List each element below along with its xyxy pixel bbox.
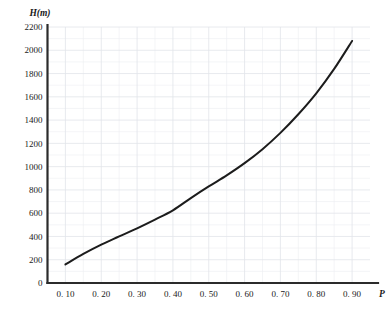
x-axis-tick-labels: 0. 100. 200. 300. 400. 500. 600. 700. 80…: [56, 289, 361, 299]
y-tick-label: 400: [29, 232, 43, 242]
y-tick-label: 1000: [25, 162, 44, 172]
y-tick-label: 1400: [25, 115, 44, 125]
y-axis-title: H(m): [28, 8, 50, 19]
line-chart: 0200400600800100012001400160018002000220…: [0, 0, 388, 316]
y-tick-label: 1600: [25, 92, 44, 102]
x-tick-label: 0. 60: [236, 289, 255, 299]
x-tick-label: 0. 20: [92, 289, 111, 299]
x-tick-label: 0. 40: [164, 289, 183, 299]
x-axis-title: P: [379, 289, 385, 299]
y-tick-label: 1800: [25, 69, 44, 79]
x-tick-label: 0. 90: [343, 289, 362, 299]
x-tick-label: 0. 80: [307, 289, 326, 299]
x-tick-label: 0. 30: [128, 289, 147, 299]
x-tick-label: 0. 70: [271, 289, 290, 299]
chart-container: 0200400600800100012001400160018002000220…: [0, 0, 388, 316]
chart-background: [0, 0, 388, 316]
y-tick-label: 0: [38, 278, 43, 288]
x-tick-label: 0. 10: [56, 289, 75, 299]
y-tick-label: 1200: [25, 139, 44, 149]
y-tick-label: 200: [29, 255, 43, 265]
y-tick-label: 2200: [25, 22, 44, 32]
x-tick-label: 0. 50: [200, 289, 219, 299]
y-tick-label: 600: [29, 208, 43, 218]
y-tick-label: 2000: [25, 45, 44, 55]
y-tick-label: 800: [29, 185, 43, 195]
